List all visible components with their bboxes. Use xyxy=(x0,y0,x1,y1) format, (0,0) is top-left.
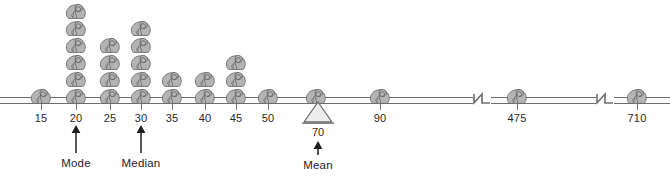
fulcrum-triangle-icon xyxy=(301,100,335,126)
stack-50 xyxy=(253,87,283,104)
axis-label-710: 710 xyxy=(617,112,657,125)
stack-45 xyxy=(221,53,251,104)
elephant-icon xyxy=(190,70,220,87)
axis-tick-25 xyxy=(110,104,111,110)
mean-value-label: 70 xyxy=(288,126,348,139)
elephant-icon xyxy=(221,70,251,87)
stack-35 xyxy=(157,70,187,104)
stack-25 xyxy=(95,36,125,104)
stack-30 xyxy=(126,19,156,104)
elephant-icon xyxy=(26,87,56,104)
elephant-icon xyxy=(126,19,156,36)
elephant-icon xyxy=(221,87,251,104)
elephant-icon xyxy=(157,70,187,87)
axis-tick-50 xyxy=(268,104,269,110)
elephant-icon xyxy=(61,2,91,19)
elephant-icon xyxy=(253,87,283,104)
stack-15 xyxy=(26,87,56,104)
axis-tick-30 xyxy=(141,104,142,110)
elephant-icon xyxy=(95,70,125,87)
annotation-mean: Mean xyxy=(273,140,363,172)
stack-90 xyxy=(365,87,395,104)
arrow-up-icon xyxy=(312,140,324,156)
elephant-icon xyxy=(622,87,652,104)
stack-40 xyxy=(190,70,220,104)
elephant-icon xyxy=(126,70,156,87)
elephant-icon xyxy=(126,36,156,53)
axis-label-50: 50 xyxy=(248,112,288,125)
elephant-icon xyxy=(95,87,125,104)
axis-tick-45 xyxy=(236,104,237,110)
elephant-number-line-figure: 15 20 25 30 35 40 45 50 90 475 710 70 Mo… xyxy=(0,0,670,185)
elephant-icon xyxy=(221,53,251,70)
axis-tick-90 xyxy=(380,104,381,110)
axis-label-90: 90 xyxy=(360,112,400,125)
elephant-icon xyxy=(61,87,91,104)
elephant-icon xyxy=(126,87,156,104)
elephant-icon xyxy=(126,53,156,70)
stack-475 xyxy=(502,87,532,104)
axis-label-475: 475 xyxy=(497,112,537,125)
axis-tick-710 xyxy=(637,104,638,110)
stack-20 xyxy=(61,2,91,104)
arrow-up-icon xyxy=(70,124,82,154)
axis-break-icon-1 xyxy=(471,88,493,110)
elephant-icon xyxy=(95,36,125,53)
axis-tick-475 xyxy=(517,104,518,110)
elephant-icon xyxy=(61,19,91,36)
axis-tick-40 xyxy=(205,104,206,110)
axis-tick-20 xyxy=(76,104,77,110)
arrow-up-icon xyxy=(135,124,147,154)
annotation-median: Median xyxy=(96,124,186,170)
elephant-icon xyxy=(190,87,220,104)
axis-tick-15 xyxy=(41,104,42,110)
elephant-icon xyxy=(61,53,91,70)
elephant-icon xyxy=(61,36,91,53)
stack-710 xyxy=(622,87,652,104)
axis-tick-35 xyxy=(172,104,173,110)
annotation-mean-label: Mean xyxy=(273,156,363,172)
elephant-icon xyxy=(157,87,187,104)
elephant-icon xyxy=(95,53,125,70)
annotation-median-label: Median xyxy=(96,154,186,170)
elephant-icon xyxy=(365,87,395,104)
axis-break-icon-2 xyxy=(594,88,616,110)
elephant-icon xyxy=(61,70,91,87)
elephant-icon xyxy=(502,87,532,104)
